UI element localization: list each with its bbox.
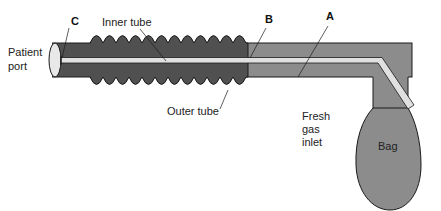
label-fresh-gas-2: gas: [302, 123, 320, 135]
reservoir-bag: [356, 108, 421, 210]
patient-port: [49, 43, 61, 77]
label-point-c: C: [71, 15, 79, 27]
label-fresh-gas-3: inlet: [302, 136, 322, 148]
bain-circuit-diagram: Patient port C Inner tube B A Outer tube…: [0, 0, 441, 211]
label-inner-tube: Inner tube: [102, 16, 152, 28]
label-patient-port-1: Patient: [8, 46, 42, 58]
leader-outer-tube: [220, 90, 228, 109]
label-fresh-gas-1: Fresh: [302, 110, 330, 122]
label-bag: Bag: [378, 140, 398, 152]
label-outer-tube: Outer tube: [167, 105, 219, 117]
label-point-b: B: [265, 13, 273, 25]
label-patient-port-2: port: [8, 60, 27, 72]
label-point-a: A: [326, 10, 334, 22]
